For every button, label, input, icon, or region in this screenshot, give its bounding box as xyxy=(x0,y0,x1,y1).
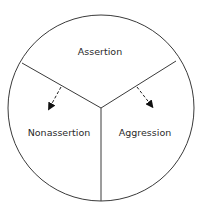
segment-label-nonassertion: Nonassertion xyxy=(28,127,91,138)
segment-label-aggression: Aggression xyxy=(119,127,171,138)
arrow-to-nonassertion-icon xyxy=(50,87,61,107)
behavior-circle-diagram: Assertion Nonassertion Aggression xyxy=(0,0,199,212)
divider-left xyxy=(22,63,101,108)
divider-right xyxy=(101,61,176,108)
arrow-to-aggression-icon xyxy=(137,87,151,105)
segment-label-assertion: Assertion xyxy=(78,46,122,57)
